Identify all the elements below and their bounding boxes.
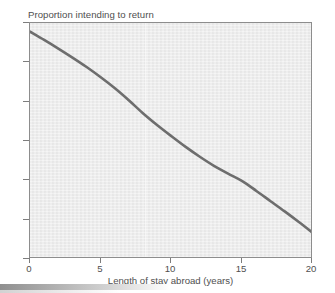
- y-tick-mark: [23, 22, 29, 23]
- x-tick-label: 10: [160, 264, 180, 274]
- plot-area: [29, 22, 312, 258]
- x-tick-label: 0: [19, 264, 39, 274]
- y-tick-mark: [23, 179, 29, 180]
- series-line-proportion-intending-to-return: [30, 23, 312, 258]
- x-tick-label: 20: [301, 264, 321, 274]
- y-tick-mark: [23, 140, 29, 141]
- x-tick-label: 5: [90, 264, 110, 274]
- y-tick-mark: [23, 61, 29, 62]
- x-tick-label: 15: [231, 264, 251, 274]
- chart-figure: Proportion intending to return .9 .8 .7 …: [0, 0, 335, 293]
- chart-title: Proportion intending to return: [28, 9, 154, 20]
- y-tick-mark: [23, 101, 29, 102]
- series-path: [30, 32, 312, 233]
- y-tick-mark: [23, 219, 29, 220]
